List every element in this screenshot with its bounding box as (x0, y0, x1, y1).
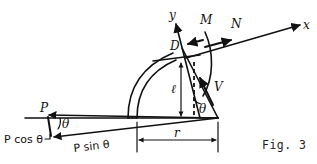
force-angle-arc (58, 118, 60, 129)
figure-container: y x D M N V θ ℓ r P (0, 0, 317, 164)
diagram-canvas: y x D M N V θ ℓ r P (0, 0, 317, 164)
shear-force-label: V (214, 80, 224, 94)
vertical-component-label: P cos θ (4, 133, 43, 146)
horizontal-component-label: P sin θ (73, 138, 111, 155)
moment-arrowhead-line (188, 40, 203, 44)
vertical-component-segment (48, 117, 51, 136)
horizontal-dimension-label: r (174, 126, 181, 140)
arch-outer-edge (128, 53, 173, 118)
horizontal-component-arrow (54, 118, 218, 137)
vertical-component-leader (45, 134, 50, 139)
y-axis-label: y (168, 8, 176, 22)
x-axis-label: x (303, 18, 310, 32)
section-point-label: D (169, 39, 180, 53)
vertical-dimension-label: ℓ (171, 82, 176, 96)
section-angle-label: θ (199, 102, 207, 116)
x-axis-arrow (186, 25, 300, 58)
figure-caption: Fig. 3 (262, 138, 307, 152)
normal-force-label: N (230, 17, 242, 31)
shear-force-arrow (200, 78, 213, 105)
resultant-force-label: P (39, 101, 49, 115)
force-angle-label: θ (62, 117, 70, 131)
moment-label: M (199, 13, 213, 27)
